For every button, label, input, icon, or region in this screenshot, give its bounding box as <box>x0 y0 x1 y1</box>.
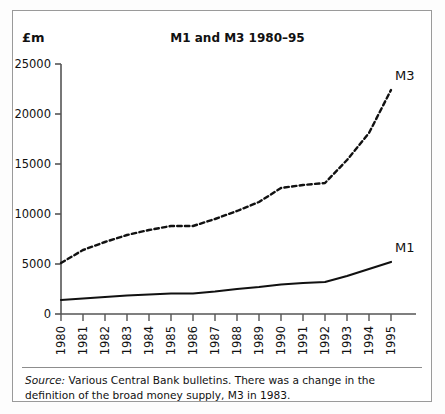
y-axis-tick-label: 5000 <box>22 257 51 271</box>
figure-container: £m M1 and M3 1980–95 0500010000150002000… <box>0 0 445 414</box>
y-axis: 0500010000150002000025000 <box>14 57 61 321</box>
x-axis-tick-label: 1994 <box>362 326 376 355</box>
x-axis-tick-label: 1986 <box>186 326 200 355</box>
x-axis-tick-label: 1987 <box>208 326 222 355</box>
x-axis-tick-label: 1993 <box>340 326 354 355</box>
x-axis-tick-label: 1984 <box>142 326 156 355</box>
y-axis-tick-label: 10000 <box>14 207 51 221</box>
line-chart-plot: 0500010000150002000025000 19801981198219… <box>0 0 445 360</box>
series-line-m1 <box>61 262 391 300</box>
source-text: Various Central Bank bulletins. There wa… <box>25 374 375 401</box>
y-axis-tick-label: 15000 <box>14 157 51 171</box>
series-line-m3 <box>61 90 391 263</box>
x-axis-tick-label: 1985 <box>164 326 178 355</box>
x-axis-tick-label: 1982 <box>98 326 112 355</box>
y-axis-tick-label: 0 <box>44 307 51 321</box>
source-footnote: Source: Various Central Bank bulletins. … <box>25 373 415 404</box>
footnote-divider <box>22 367 422 368</box>
x-axis-tick-label: 1995 <box>384 326 398 355</box>
x-axis-tick-label: 1983 <box>120 326 134 355</box>
x-axis-tick-label: 1991 <box>296 326 310 355</box>
x-axis-tick-label: 1992 <box>318 326 332 355</box>
data-series-group <box>61 90 391 300</box>
x-axis-tick-label: 1989 <box>252 326 266 355</box>
series-annotations: M3M1 <box>395 68 415 255</box>
x-axis-tick-label: 1981 <box>76 326 90 355</box>
source-prefix: Source: <box>25 374 65 386</box>
x-axis-tick-label: 1980 <box>54 326 68 355</box>
x-axis-tick-label: 1988 <box>230 326 244 355</box>
y-axis-tick-label: 25000 <box>14 57 51 71</box>
x-axis: 1980198119821983198419851986198719881989… <box>54 314 416 355</box>
y-axis-tick-label: 20000 <box>14 107 51 121</box>
series-label-m3: M3 <box>395 68 415 83</box>
series-label-m1: M1 <box>395 240 415 255</box>
x-axis-tick-label: 1990 <box>274 326 288 355</box>
